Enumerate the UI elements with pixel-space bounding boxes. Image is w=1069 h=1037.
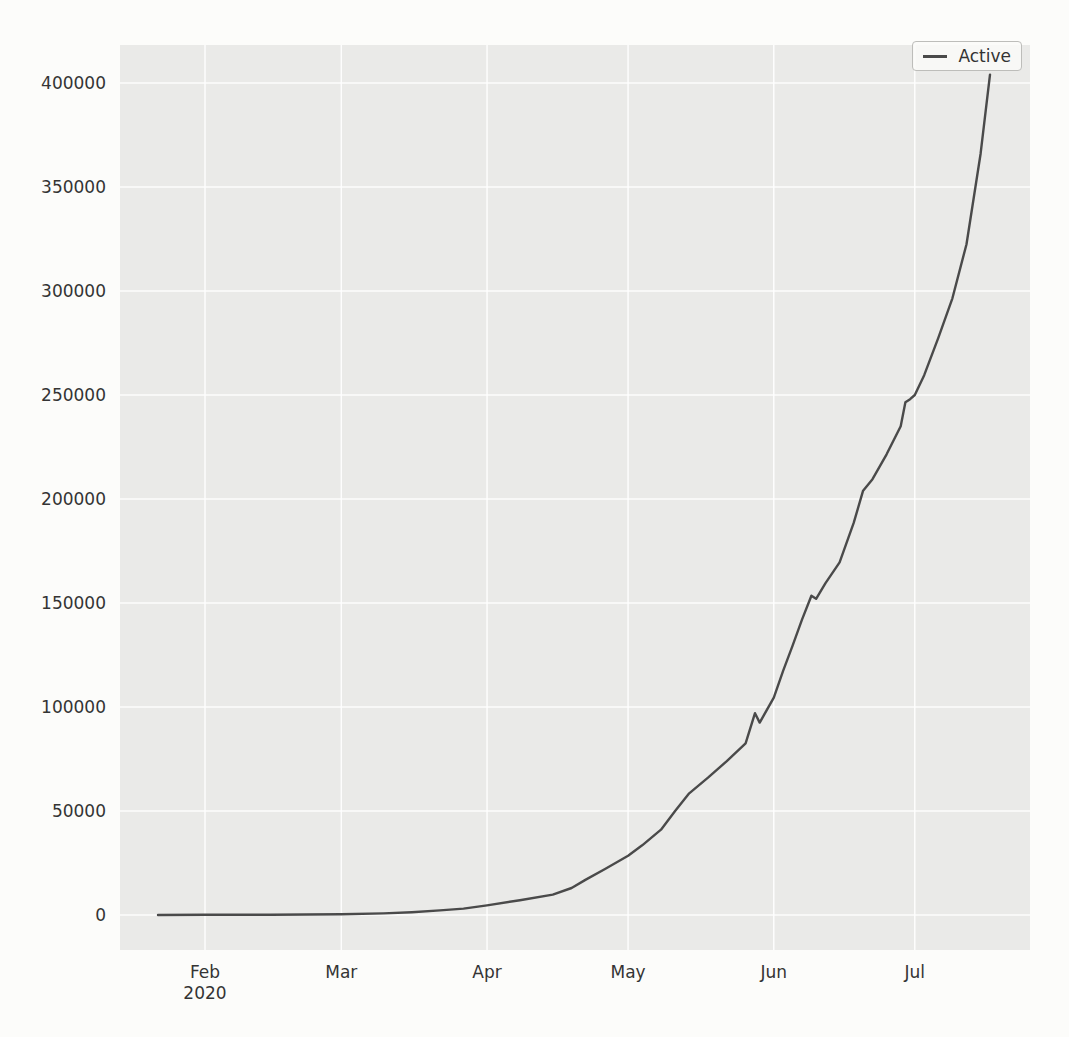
x-tick-label: Apr <box>472 962 501 982</box>
x-tick-label: Jun <box>759 962 787 982</box>
x-tick-label: Mar <box>325 962 357 982</box>
y-tick-label: 0 <box>95 905 106 925</box>
chart-canvas: 0500001000001500002000002500003000003500… <box>0 0 1069 1037</box>
plot-area <box>120 45 1030 950</box>
x-tick-label: May <box>610 962 645 982</box>
active-cases-line-chart: 0500001000001500002000002500003000003500… <box>0 0 1069 1037</box>
y-tick-label: 50000 <box>52 801 106 821</box>
y-tick-label: 300000 <box>41 281 106 301</box>
x-tick-label: Feb2020 <box>183 962 226 1003</box>
y-tick-label: 150000 <box>41 593 106 613</box>
y-tick-label: 100000 <box>41 697 106 717</box>
legend-line-sample <box>923 55 947 58</box>
x-tick-label: Jul <box>904 962 926 982</box>
y-tick-label: 200000 <box>41 489 106 509</box>
y-tick-label: 250000 <box>41 385 106 405</box>
y-tick-label: 350000 <box>41 177 106 197</box>
y-tick-label: 400000 <box>41 73 106 93</box>
legend-label: Active <box>958 46 1011 66</box>
legend: Active <box>912 41 1022 71</box>
